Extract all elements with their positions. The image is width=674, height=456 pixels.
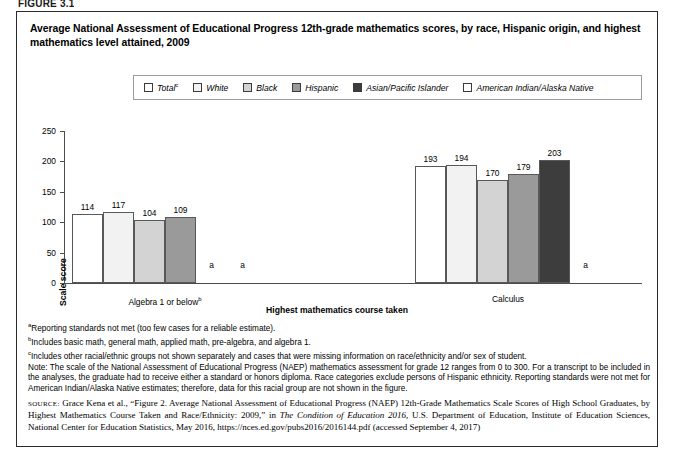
suppressed-marker-0-5: a <box>227 261 258 270</box>
source-kicker: SOURCE: <box>28 400 60 408</box>
legend-item-1: White <box>193 83 228 93</box>
footnote-b: bIncludes basic math, general math, appl… <box>28 334 650 348</box>
bar-1-2 <box>477 180 508 283</box>
legend-item-5: American Indian/Alaska Native <box>463 83 593 93</box>
y-tick-50 <box>60 253 64 254</box>
y-tick-100 <box>60 222 64 223</box>
legend-label-4: Asian/Pacific Islander <box>366 83 448 93</box>
suppressed-marker-0-4: a <box>196 261 227 270</box>
x-category-marker-0: b <box>198 296 201 302</box>
bar-1-3 <box>508 174 539 283</box>
bar-value-label-0-0: 114 <box>72 203 103 212</box>
bar-value-label-1-1: 194 <box>446 154 477 163</box>
source-publication-title: The Condition of Education 2016 <box>280 410 406 420</box>
figure-page: FIGURE 3.1 Average National Assessment o… <box>0 0 674 456</box>
legend-label-5: American Indian/Alaska Native <box>476 83 593 93</box>
legend-label-3: Hispanic <box>305 83 338 93</box>
y-tick-label-200: 200 <box>22 157 56 165</box>
bar-0-2 <box>134 220 165 283</box>
figure-title: Average National Assessment of Education… <box>30 22 644 50</box>
source-block: SOURCE: Grace Kena et al., “Figure 2. Av… <box>28 398 650 433</box>
chart-legend: TotalcWhiteBlackHispanicAsian/Pacific Is… <box>133 75 642 100</box>
legend-label-1: White <box>206 83 228 93</box>
legend-swatch-icon-5 <box>463 83 472 92</box>
legend-label-0: Totalc <box>157 82 178 93</box>
bar-value-label-0-2: 104 <box>134 209 165 218</box>
y-tick-label-150: 150 <box>22 188 56 196</box>
legend-item-0: Totalc <box>144 82 178 93</box>
legend-swatch-icon-3 <box>292 83 301 92</box>
footnote-c: cIncludes other racial/ethnic groups not… <box>28 348 650 362</box>
legend-item-4: Asian/Pacific Islander <box>353 83 448 93</box>
note-paragraph: Note: The scale of the National Assessme… <box>28 363 650 394</box>
legend-label-marker-0: c <box>175 82 178 88</box>
bar-0-0 <box>72 214 103 283</box>
bar-0-3 <box>165 217 196 283</box>
footnote-b-text: Includes basic math, general math, appli… <box>31 338 310 347</box>
legend-swatch-icon-0 <box>144 83 153 92</box>
bar-value-label-1-2: 170 <box>477 169 508 178</box>
footnote-a-text: Reporting standards not met (too few cas… <box>31 324 275 333</box>
legend-swatch-icon-4 <box>353 83 362 92</box>
x-axis-title: Highest mathematics course taken <box>0 305 674 315</box>
footnote-c-text: Includes other racial/ethnic groups not … <box>31 352 527 361</box>
bar-0-1 <box>103 212 134 283</box>
y-tick-150 <box>60 192 64 193</box>
footnotes-block: aReporting standards not met (too few ca… <box>28 320 650 394</box>
y-tick-label-50: 50 <box>22 249 56 257</box>
x-axis-line <box>64 283 642 284</box>
y-tick-0 <box>60 283 64 284</box>
suppressed-marker-1-5: a <box>570 261 601 270</box>
y-tick-label-100: 100 <box>22 218 56 226</box>
bar-value-label-0-1: 117 <box>103 201 134 210</box>
bar-value-label-1-0: 193 <box>415 155 446 164</box>
figure-number: FIGURE 3.1 <box>18 0 74 8</box>
bar-1-0 <box>415 166 446 283</box>
plot-area: Scale score 050100150200250114117104109a… <box>64 131 642 283</box>
legend-item-3: Hispanic <box>292 83 338 93</box>
legend-label-2: Black <box>256 83 277 93</box>
y-tick-label-250: 250 <box>22 127 56 135</box>
bar-value-label-0-3: 109 <box>165 206 196 215</box>
legend-item-2: Black <box>243 83 277 93</box>
bar-value-label-1-4: 203 <box>539 149 570 158</box>
bar-value-label-1-3: 179 <box>508 163 539 172</box>
footnote-a: aReporting standards not met (too few ca… <box>28 320 650 334</box>
bar-1-4 <box>539 160 570 283</box>
y-tick-250 <box>60 131 64 132</box>
y-tick-200 <box>60 161 64 162</box>
x-category-label-1: Calculus <box>385 295 631 304</box>
bar-1-1 <box>446 165 477 283</box>
legend-swatch-icon-2 <box>243 83 252 92</box>
legend-swatch-icon-1 <box>193 83 202 92</box>
y-tick-label-0: 0 <box>22 279 56 287</box>
